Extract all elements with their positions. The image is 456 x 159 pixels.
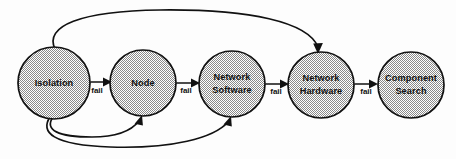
flow-diagram-svg: Isolation Node Network Software Network … (0, 0, 456, 159)
edge-isolation-to-network-hardware-top (53, 10, 323, 54)
node-node[interactable]: Node (110, 50, 176, 116)
node-network-software-label-line2: Software (212, 85, 252, 95)
node-network-hardware-label-line1: Network (303, 73, 341, 83)
node-component-search-circle[interactable] (378, 52, 444, 118)
node-node-label: Node (131, 78, 154, 88)
node-network-software-circle[interactable] (199, 51, 265, 117)
node-component-search-label-line1: Component (385, 73, 437, 83)
node-network-hardware[interactable]: Network Hardware (288, 52, 354, 118)
node-isolation-label: Isolation (35, 78, 74, 88)
node-network-hardware-circle[interactable] (288, 52, 354, 118)
edge-path-short-bottom-curve (50, 117, 139, 137)
node-network-software-label-line1: Network (214, 72, 252, 82)
edge-label-fail-1: fail (91, 86, 103, 95)
node-component-search-label-line2: Search (395, 86, 427, 96)
edge-label-fail-2: fail (180, 86, 192, 95)
node-network-hardware-label-line2: Hardware (300, 86, 343, 96)
state-diagram-canvas: Isolation Node Network Software Network … (0, 0, 456, 159)
edge-path-top-curve (53, 10, 318, 49)
node-network-software[interactable]: Network Software (199, 51, 265, 117)
node-isolation[interactable]: Isolation (18, 47, 90, 119)
node-component-search[interactable]: Component Search (378, 52, 444, 118)
edge-label-fail-4: fail (360, 87, 372, 96)
edge-label-fail-3: fail (270, 87, 282, 96)
